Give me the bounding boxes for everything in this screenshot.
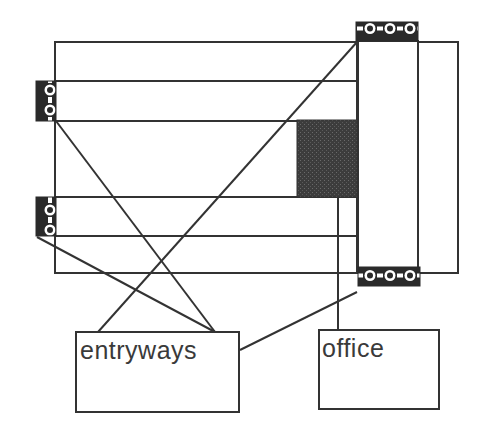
entry-left-upper bbox=[36, 81, 56, 121]
entry-left-lower bbox=[36, 197, 56, 236]
floor-plan-diagram: entryways office bbox=[0, 0, 481, 447]
entry-bottom bbox=[358, 267, 420, 286]
connector-entry-left-lower bbox=[37, 237, 215, 332]
tall-room bbox=[357, 41, 418, 273]
entryways-label: entryways bbox=[80, 338, 197, 363]
office-label: office bbox=[322, 336, 384, 361]
diagram-svg bbox=[0, 0, 481, 447]
office-area-block bbox=[297, 120, 357, 197]
right-annex-room bbox=[418, 42, 458, 273]
rooms-group bbox=[55, 41, 458, 273]
entry-top bbox=[356, 22, 418, 41]
